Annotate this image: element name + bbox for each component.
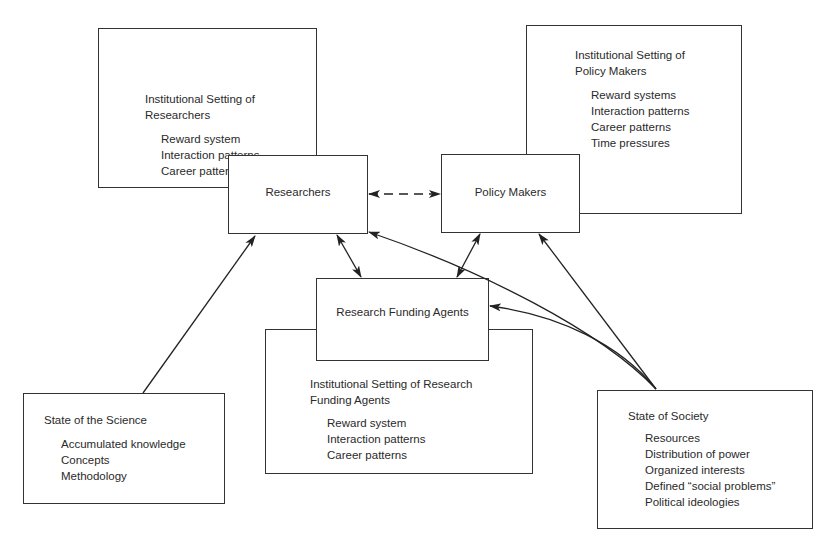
funding-agents-box: Research Funding Agents <box>316 278 489 361</box>
researchers-box: Researchers <box>228 155 368 234</box>
researchers-label: Researchers <box>229 186 367 198</box>
title-line: Institutional Setting of <box>145 91 255 107</box>
list-item: Methodology <box>61 468 186 484</box>
state-society-items: Resources Distribution of power Organize… <box>645 430 775 510</box>
policy-makers-box: Policy Makers <box>441 154 580 233</box>
list-item: Resources <box>645 430 775 446</box>
list-item: Organized interests <box>645 462 775 478</box>
list-item: Career patterns <box>591 119 689 135</box>
title-line: Researchers <box>145 107 255 123</box>
list-item: Time pressures <box>591 135 689 151</box>
edge-science-researchers <box>143 236 255 393</box>
state-society-title: State of Society <box>628 408 709 424</box>
edge-society-policy-makers <box>539 234 656 389</box>
state-science-box: State of the Science Accumulated knowled… <box>23 393 225 504</box>
funding-agents-label: Research Funding Agents <box>317 306 488 318</box>
inst-researchers-title: Institutional Setting of Researchers <box>145 91 255 123</box>
inst-funding-agents-title: Institutional Setting of Research Fundin… <box>310 376 472 408</box>
state-science-title: State of the Science <box>44 412 147 428</box>
title-line: Policy Makers <box>575 63 685 79</box>
inst-funding-agents-items: Reward system Interaction patterns Caree… <box>327 415 425 463</box>
title-line: Institutional Setting of <box>575 47 685 63</box>
state-science-items: Accumulated knowledge Concepts Methodolo… <box>61 436 186 484</box>
list-item: Reward systems <box>591 87 689 103</box>
state-society-box: State of Society Resources Distribution … <box>597 390 813 529</box>
list-item: Concepts <box>61 452 186 468</box>
list-item: Interaction patterns <box>591 103 689 119</box>
list-item: Distribution of power <box>645 446 775 462</box>
list-item: Reward system <box>327 415 425 431</box>
title-line: Institutional Setting of Research <box>310 376 472 392</box>
list-item: Interaction patterns <box>327 431 425 447</box>
list-item: Career patterns <box>327 447 425 463</box>
title-line: Funding Agents <box>310 392 472 408</box>
edge-researchers-funding-agents <box>337 235 361 277</box>
list-item: Political ideologies <box>645 494 775 510</box>
list-item: Accumulated knowledge <box>61 436 186 452</box>
list-item: Reward system <box>161 131 259 147</box>
inst-policy-makers-items: Reward systems Interaction patterns Care… <box>591 87 689 151</box>
inst-policy-makers-title: Institutional Setting of Policy Makers <box>575 47 685 79</box>
policy-makers-label: Policy Makers <box>442 186 579 198</box>
edge-policy-makers-funding-agents <box>457 234 480 277</box>
list-item: Defined “social problems” <box>645 478 775 494</box>
